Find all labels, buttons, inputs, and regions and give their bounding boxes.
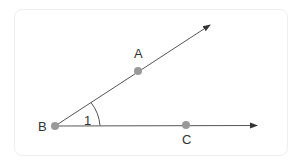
angle-arc (91, 103, 100, 126)
point-c (182, 121, 190, 129)
angle-label: 1 (84, 114, 91, 127)
point-b (51, 122, 59, 130)
point-a-label: A (134, 47, 143, 60)
point-b-label: B (38, 120, 47, 133)
point-a (134, 67, 142, 75)
point-c-label: C (182, 133, 191, 146)
angle-diagram (0, 0, 302, 162)
ray-ba (55, 25, 210, 126)
